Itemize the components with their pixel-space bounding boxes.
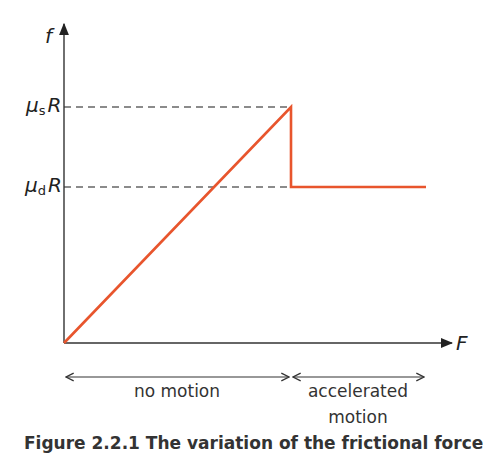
mu-s-r-label: μsR — [26, 93, 61, 118]
y-axis-label: f — [45, 24, 52, 48]
friction-curve — [64, 107, 426, 343]
figure-caption: Figure 2.2.1 The variation of the fricti… — [24, 433, 483, 453]
mu-symbol: μ — [26, 93, 39, 117]
accelerated-label-line1: accelerated — [298, 381, 418, 401]
accelerated-label-line2: motion — [298, 407, 418, 427]
mu-d-r-label: μdR — [25, 173, 62, 198]
mu-d-subscript: d — [38, 183, 46, 198]
mu-s-subscript: s — [39, 103, 46, 118]
r-symbol: R — [48, 173, 62, 197]
no-motion-label: no motion — [107, 381, 247, 401]
mu-symbol: μ — [25, 173, 38, 197]
r-symbol: R — [48, 93, 62, 117]
x-axis-label: F — [456, 331, 468, 355]
